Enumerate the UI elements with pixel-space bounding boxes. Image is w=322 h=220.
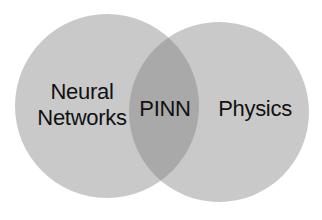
pinn-label: PINN [132,96,198,122]
neural-networks-label-line-2: Networks [27,105,137,131]
neural-networks-label-line-1: Neural [27,79,137,105]
neural-networks-label: Neural Networks [27,79,137,131]
physics-label: Physics [212,96,298,122]
